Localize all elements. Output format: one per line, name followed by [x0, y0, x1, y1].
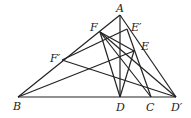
label-B: B	[12, 100, 21, 113]
geometry-diagram: A B C D D′ E E′ F F′	[0, 0, 191, 118]
label-F: F	[89, 21, 98, 34]
label-E: E	[140, 40, 149, 53]
diagram-canvas: A B C D D′ E E′ F F′	[0, 0, 191, 118]
segment-DE	[120, 51, 134, 97]
segment-F-prime-D-prime	[62, 60, 176, 97]
label-C: C	[146, 101, 155, 114]
label-A: A	[115, 2, 124, 15]
label-D: D	[115, 101, 125, 114]
label-D-prime: D′	[170, 101, 183, 114]
label-F-prime: F′	[49, 52, 61, 65]
segment-BE	[18, 51, 134, 97]
label-E-prime: E′	[130, 21, 142, 34]
